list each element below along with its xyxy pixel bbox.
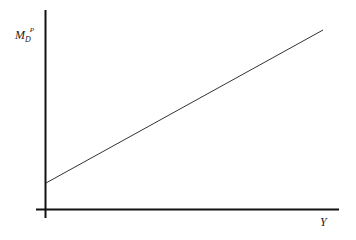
y-axis-label-main: M	[15, 28, 25, 42]
diagram-canvas	[0, 0, 356, 240]
x-axis-label: Y	[320, 215, 327, 230]
y-axis-label: MDP	[15, 26, 34, 44]
y-axis-label-subscript: D	[25, 35, 31, 44]
money-demand-line	[46, 30, 323, 183]
y-axis-label-superscript: P	[30, 26, 34, 34]
